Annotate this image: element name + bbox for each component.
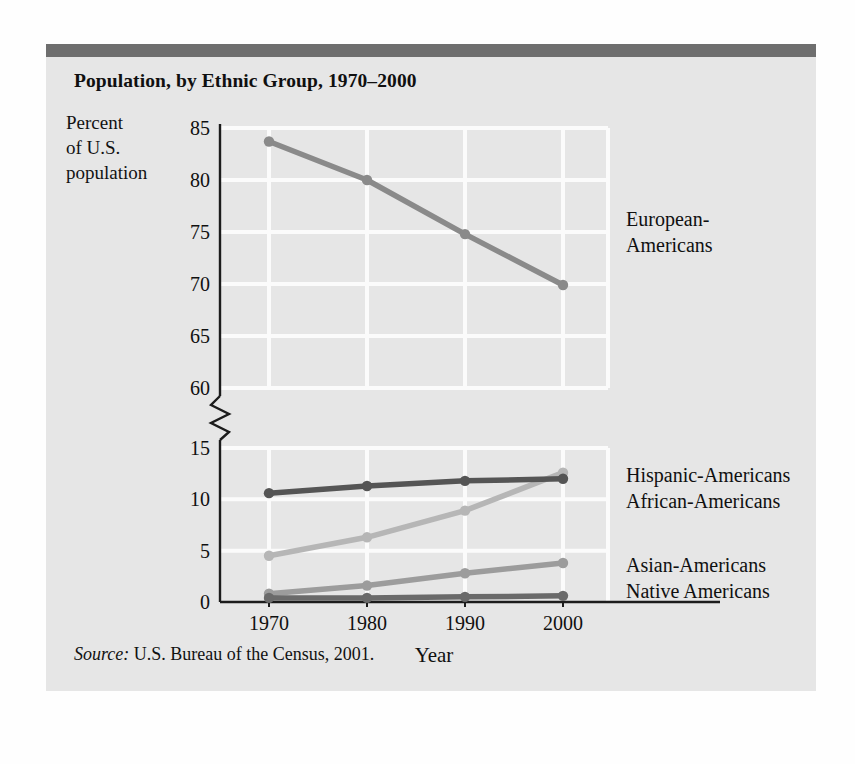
series-label: Native Americans (626, 580, 770, 602)
x-tick-label: 2000 (543, 612, 583, 634)
chart-panel: Population, by Ethnic Group, 1970–2000 E… (46, 44, 816, 691)
y-tick-label: 5 (200, 540, 210, 562)
y-tick-label: 60 (190, 377, 210, 399)
y-tick-label: 15 (190, 437, 210, 459)
y-tick-label: 10 (190, 488, 210, 510)
series-label: Asian-Americans (626, 554, 766, 576)
y-tick-label: 80 (190, 169, 210, 191)
y-tick-label: 75 (190, 221, 210, 243)
source-text: U.S. Bureau of the Census, 2001. (129, 644, 374, 664)
x-axis-label: Year (415, 643, 454, 667)
series-label: European- (626, 208, 709, 231)
y-tick-label: 70 (190, 273, 210, 295)
x-tick-label: 1980 (347, 612, 387, 634)
series-asian-americans (264, 558, 568, 599)
source-note: Source: U.S. Bureau of the Census, 2001. (74, 644, 374, 665)
x-tick-label: 1990 (445, 612, 485, 634)
series-label: Hispanic-Americans (626, 464, 791, 487)
y-tick-label: 85 (190, 117, 210, 139)
series-label: Americans (626, 234, 713, 256)
x-tick-label: 1970 (249, 612, 289, 634)
y-tick-label: 0 (200, 591, 210, 613)
y-tick-label: 65 (190, 325, 210, 347)
series-label: African-Americans (626, 490, 781, 512)
line-chart: 8580757065601510501970198019902000YearEu… (46, 44, 816, 691)
source-keyword: Source: (74, 644, 129, 664)
series-european-americans (264, 136, 568, 290)
